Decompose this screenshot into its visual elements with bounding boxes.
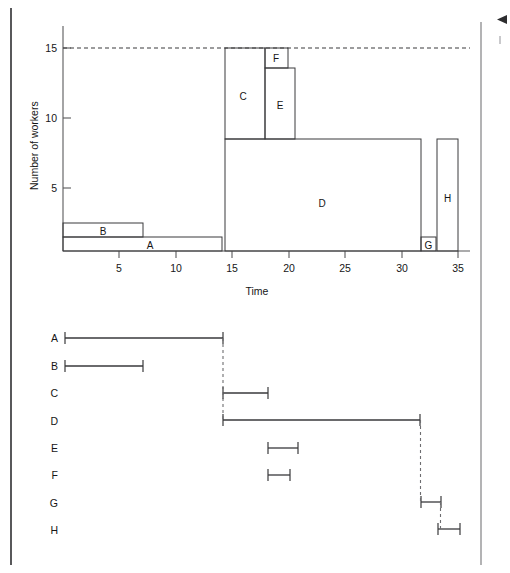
gantt-row-label-d: D [50, 415, 58, 427]
figure-page: 15 10 5 Number of workers 5 10 15 20 25 … [0, 0, 510, 573]
histogram-block-d [225, 139, 421, 251]
y-axis-title: Number of workers [28, 101, 40, 190]
gantt-row-label-b: B [51, 360, 58, 372]
histogram-block-a [63, 237, 222, 251]
gantt-row-label-e: E [51, 442, 58, 454]
left-arrow-marker [497, 15, 507, 24]
x-axis-title: Time [246, 285, 269, 297]
y-tick-label-5: 5 [51, 182, 57, 194]
x-tick-label-35: 35 [452, 262, 464, 274]
figure-canvas: 15 10 5 Number of workers 5 10 15 20 25 … [0, 0, 510, 573]
histogram-block-d-label: D [318, 198, 325, 209]
x-tick-label-20: 20 [283, 262, 295, 274]
gantt-row-label-g: G [50, 497, 58, 509]
x-tick-label-10: 10 [170, 262, 182, 274]
resource-histogram-chart: 15 10 5 Number of workers 5 10 15 20 25 … [28, 26, 470, 297]
y-tick-label-15: 15 [45, 42, 57, 54]
x-tick-label-25: 25 [339, 262, 351, 274]
gantt-row-label-a: A [51, 332, 58, 344]
histogram-block-e-label: E [277, 100, 284, 111]
margin-tick-mark [499, 36, 501, 44]
histogram-block-g-label: G [425, 240, 433, 251]
histogram-block-b-label: B [100, 226, 107, 237]
histogram-block-a-label: A [147, 240, 154, 251]
y-tick-label-10: 10 [45, 112, 57, 124]
x-tick-label-30: 30 [396, 262, 408, 274]
gantt-row-label-c: C [50, 387, 58, 399]
gantt-row-label-h: H [50, 524, 58, 536]
histogram-block-f-label: F [273, 53, 279, 64]
x-tick-label-15: 15 [226, 262, 238, 274]
histogram-block-c-label: C [239, 91, 246, 102]
histogram-block-h-label: H [444, 193, 451, 204]
activity-gantt-chart: A B C D E F [50, 332, 460, 536]
gantt-row-label-f: F [52, 469, 58, 481]
x-tick-label-5: 5 [116, 262, 122, 274]
